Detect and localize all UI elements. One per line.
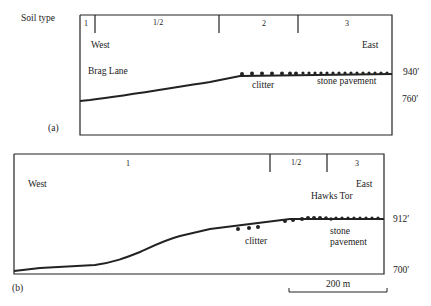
profile-a-zone-3: 3 [345,20,349,28]
profile-b-ground [14,219,384,271]
profile-a-clitter: clitter [252,81,274,91]
profile-a-zone-2: 2 [262,20,266,28]
profile-b-pavement-1: stone [330,227,350,237]
profile-b-zone-3: 3 [355,160,359,168]
soil-type-label: Soil type [21,14,55,24]
profile-b-elev-top: 912′ [393,215,409,225]
profile-a-pavement: stone pavement [317,77,376,87]
scale-bar-label: 200 m [326,280,350,290]
profile-a-elev-top: 940′ [403,68,419,78]
profile-b-elev-bottom: 700′ [393,266,409,276]
profile-b-label: (b) [12,284,23,294]
profile-b-zone-half: 1/2 [291,159,301,167]
profile-a-zone-1: 1 [84,20,88,28]
profile-a-west: West [91,41,110,51]
profile-b-west: West [28,180,47,190]
profile-b-frame [14,154,384,274]
profile-a-east: East [362,41,378,51]
profile-b-zone-1: 1 [126,160,130,168]
profile-b-east: East [356,180,372,190]
profile-b-clitter: clitter [245,237,267,247]
profile-a-elev-bottom: 760′ [402,95,418,105]
profile-b-place: Hawks Tor [311,192,353,202]
profile-b-pavement-2: pavement [330,238,367,248]
profile-a-label: (a) [48,124,59,134]
profile-a-place: Brag Lane [88,67,128,77]
profile-a-zone-half: 1/2 [153,19,163,27]
